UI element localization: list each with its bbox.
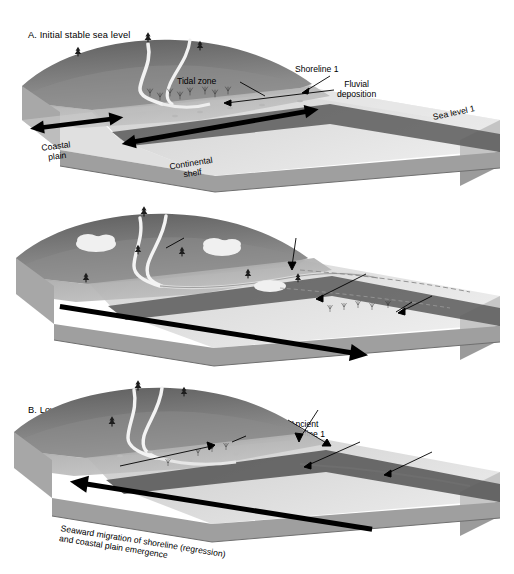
label-fluvial-deposition: Fluvial deposition <box>337 79 376 99</box>
label-shoreline-1: Shoreline 1 <box>295 64 338 74</box>
panel-a-block <box>22 40 500 192</box>
label-tidal-zone-a: Tidal zone <box>177 76 216 86</box>
panel-a-initial-stable-sea-level: A. Initial stable sea level Tidal zone S… <box>0 0 514 196</box>
panel-c-artwork <box>0 376 514 574</box>
sea-level-block-diagram-figure: A. Initial stable sea level Tidal zone S… <box>0 0 514 574</box>
panel-c-elevated-sea-level-submergence: C. Elevated sea level - submergence Trun… <box>0 376 514 574</box>
label-coastal-plain: Coastal plain <box>41 139 72 163</box>
panel-c-block <box>14 388 500 542</box>
panel-b-artwork <box>0 196 514 376</box>
panel-b-lowered-sea-level-emergence: B. Lowered sea level - emergence Eroded … <box>0 196 514 376</box>
panel-a-title: A. Initial stable sea level <box>28 30 130 40</box>
